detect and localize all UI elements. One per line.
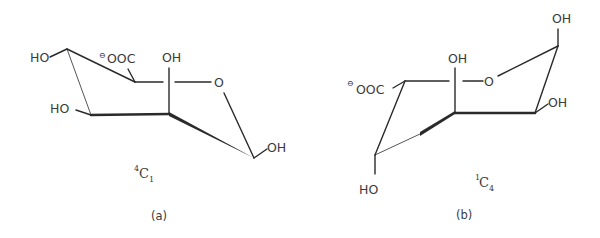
- label-c3-ho: HO: [50, 101, 69, 116]
- bond-o-c1: [224, 93, 254, 158]
- label-ring-oxygen: O: [214, 75, 224, 90]
- conformation-sub: 4: [489, 184, 494, 193]
- bond-c2-c1-wedge: [169, 112, 254, 158]
- label-carboxylate: OOC: [107, 51, 136, 66]
- label-c3-oh: OH: [448, 51, 467, 66]
- label-c1-oh: OH: [267, 140, 286, 155]
- structure-b: ⊖ OOC OH O OH OH HO 1 C 4 (b): [347, 11, 571, 222]
- chair-conformation-diagram: HO HO ⊖ OOC OH O OH 4 C 1 (a) ⊖ OOC OH O…: [0, 0, 600, 238]
- bond-c1-oh: [254, 149, 267, 158]
- label-c1-oh: OH: [552, 11, 571, 26]
- label-ring-oxygen: O: [484, 74, 494, 89]
- bond-c4-oh: [50, 49, 67, 57]
- label-c2-oh: OH: [162, 50, 181, 65]
- bond-c3-c2-front: [91, 114, 169, 115]
- label-carboxylate-charge: ⊖: [99, 51, 106, 60]
- caption-a: (a): [151, 209, 167, 223]
- bond-c3-oh: [76, 110, 91, 115]
- bond-c4-c3-wedge: [420, 111, 455, 136]
- caption-b: (b): [456, 208, 472, 222]
- label-carboxylate: OOC: [356, 82, 385, 97]
- conformation-base: C: [479, 175, 489, 190]
- label-carboxylate-charge: ⊖: [347, 79, 354, 88]
- conformation-base: C: [139, 166, 149, 181]
- label-c2-oh: OH: [548, 95, 567, 110]
- label-c4-ho: HO: [30, 50, 49, 65]
- conformation-sub: 1: [149, 175, 154, 184]
- label-c4-ho: HO: [359, 182, 378, 197]
- structure-a: HO HO ⊖ OOC OH O OH 4 C 1 (a): [30, 49, 286, 223]
